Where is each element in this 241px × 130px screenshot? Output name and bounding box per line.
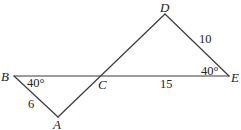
side-ab-label: 6 [28,97,34,111]
vertex-label-a: A [52,117,61,130]
vertex-label-c: C [98,77,107,92]
vertex-label-b: B [1,69,9,84]
side-ce-label: 15 [160,77,173,91]
segment-de [165,14,229,76]
angle-e-label: 40° [201,64,219,78]
vertex-label-e: E [230,70,239,85]
angle-b-label: 40° [27,76,45,90]
geometry-diagram: B A C D E 40° 6 15 10 40° [0,0,241,130]
side-de-label: 10 [199,32,212,46]
vertex-label-d: D [159,0,170,15]
segment-ad [58,14,165,117]
